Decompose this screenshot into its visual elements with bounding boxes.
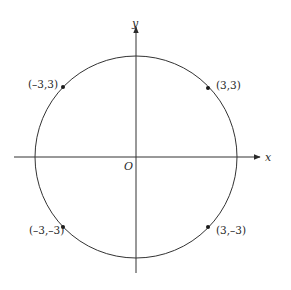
point-neg3-3: [61, 85, 65, 89]
point-3-3: [206, 86, 210, 90]
y-axis-label: y: [131, 17, 139, 30]
origin-label: O: [124, 160, 133, 173]
point-label-neg3-neg3: (–3,–3): [29, 224, 64, 236]
point-label-3-3: (3,3): [216, 79, 241, 91]
x-axis-label: x: [265, 151, 272, 164]
coordinate-diagram: y x O (–3,3) (3,3) (–3,–3) (3,–3): [0, 0, 291, 290]
point-label-3-neg3: (3,–3): [216, 224, 246, 236]
point-3-neg3: [206, 225, 210, 229]
point-label-neg3-3: (–3,3): [28, 78, 58, 90]
